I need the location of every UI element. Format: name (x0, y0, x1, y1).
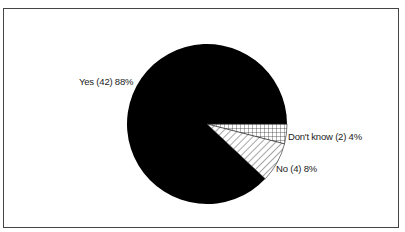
label-yes: Yes (42) 88% (79, 76, 133, 87)
label-no: No (4) 8% (276, 163, 317, 174)
pie-chart (0, 0, 405, 232)
label-dont-know: Don't know (2) 4% (288, 131, 362, 142)
